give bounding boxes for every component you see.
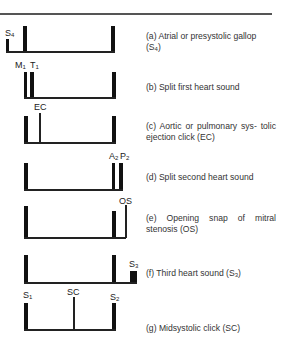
a2-bar — [112, 163, 115, 191]
s2-bar — [112, 116, 116, 144]
row-g-description: (g) Midsystolic click (SC) — [146, 323, 276, 334]
s1-bar — [24, 163, 28, 191]
m1-bar — [24, 72, 27, 99]
baseline — [24, 329, 116, 331]
baseline — [24, 97, 116, 99]
row-b-description: (b) Split first heart sound — [146, 82, 276, 93]
s1-bar — [24, 206, 28, 238]
label-p2: P2 — [120, 152, 129, 161]
label-m1: M1 — [15, 61, 26, 70]
label-ec: EC — [34, 103, 47, 112]
s2-bar — [112, 255, 116, 284]
row-f-description: (f) Third heart sound (S3) — [146, 268, 276, 279]
baseline — [24, 142, 116, 144]
sc-line — [73, 297, 75, 331]
s2-bar — [112, 72, 116, 99]
s2-bar — [112, 303, 116, 331]
label-a2: A2 — [109, 152, 118, 161]
row-c-description: (c) Aortic or pulmonary sys- tolic eject… — [146, 121, 276, 142]
top-rule — [0, 13, 272, 15]
label-sc: SC — [67, 288, 80, 297]
label-s3: S3 — [129, 260, 138, 269]
label-s1: S1 — [23, 291, 32, 300]
ec-line — [39, 113, 41, 144]
baseline — [24, 237, 126, 239]
s2-bar — [112, 211, 116, 238]
os-line — [125, 205, 127, 238]
baseline — [24, 282, 137, 284]
s1-bar — [24, 255, 28, 284]
row-a-description: (a) Atrial or presystolic gallop (S4) — [146, 31, 276, 52]
baseline — [6, 51, 115, 53]
t1-bar — [30, 72, 34, 99]
s1-bar — [23, 26, 27, 53]
row-e-description: (e) Opening snap of mitral stenosis (OS) — [146, 213, 276, 234]
label-s4: S4 — [5, 29, 14, 38]
p2-bar — [119, 163, 123, 191]
row-d-description: (d) Split second heart sound — [146, 172, 276, 183]
s1-bar — [24, 303, 28, 331]
label-s2: S2 — [110, 293, 119, 302]
baseline — [24, 189, 123, 191]
s1-bar — [24, 116, 28, 144]
s2-bar — [111, 26, 115, 53]
label-t1: T1 — [30, 61, 39, 70]
